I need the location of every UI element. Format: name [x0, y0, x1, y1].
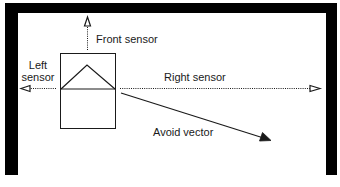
- left-sensor-label-line2: sensor: [20, 71, 56, 83]
- left-sensor-label-line1: Left: [20, 59, 56, 71]
- avoid-vector-label: Avoid vector: [153, 126, 213, 138]
- front-sensor-arrowhead-icon: [85, 17, 91, 26]
- robot-heading-triangle-icon: [61, 65, 115, 89]
- left-sensor-label: Left sensor: [20, 59, 56, 83]
- right-sensor-arrowhead-icon: [310, 86, 320, 92]
- right-sensor-label: Right sensor: [164, 71, 226, 83]
- avoid-vector-arrowhead-icon: [260, 133, 272, 142]
- front-sensor-label: Front sensor: [96, 33, 158, 45]
- robot-body: [61, 54, 116, 129]
- diagram-graphics: [0, 0, 340, 187]
- left-sensor-arrowhead-icon: [21, 86, 30, 92]
- sensor-diagram: Front sensor Left sensor Right sensor Av…: [0, 0, 340, 187]
